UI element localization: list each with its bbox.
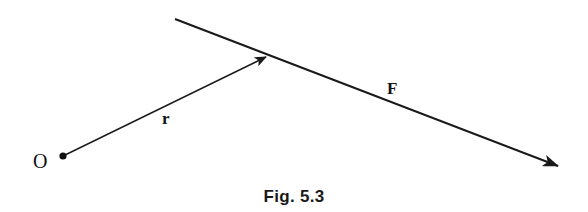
- vector-label-r: r: [162, 109, 170, 128]
- vector-label-f: F: [387, 79, 397, 98]
- vector-diagram: O r F: [0, 0, 588, 212]
- position-vector-r: [63, 57, 266, 156]
- figure-caption: Fig. 5.3: [0, 187, 588, 207]
- origin-label: O: [33, 150, 47, 172]
- origin-dot: [59, 152, 66, 159]
- force-line-f: [175, 19, 558, 166]
